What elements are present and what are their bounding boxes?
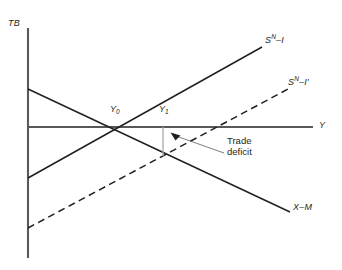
curve-label-sn-minus-i-prime: SN–I′ [288,77,309,87]
curve-label-x-minus-m: X–M [293,202,312,212]
diagram-canvas [0,0,342,270]
curve-label-sn-minus-i: SN–I [265,35,284,45]
trade-deficit-line-2: deficit [227,147,252,158]
y-axis-label: TB [8,18,20,28]
point-label-y0-sub: 0 [116,108,120,115]
curve-label-sn-minus-i-prime-rest: –I′ [299,77,309,87]
sn-minus-i-curve [28,47,262,178]
point-label-y1: Y1 [159,104,169,114]
x-axis-label: Y [319,120,325,130]
curve-label-sn-minus-i-rest: –I [276,35,284,45]
trade-deficit-arrowhead [171,133,181,141]
trade-balance-diagram: TB Y SN–I SN–I′ X–M Y0 Y1 Trade deficit [0,0,342,270]
point-label-y0: Y0 [110,104,120,114]
trade-deficit-annotation: Trade deficit [227,136,252,158]
curve-label-x-minus-m-rest: –M [299,202,312,212]
point-label-y1-sub: 1 [165,108,169,115]
